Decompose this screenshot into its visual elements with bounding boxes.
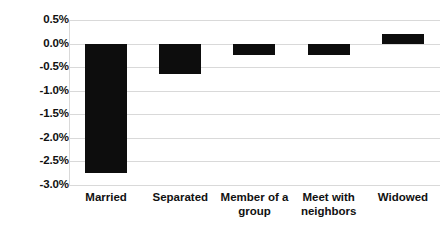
x-axis-tick-label: Member of a group [217,190,291,219]
y-axis-tick-label: -1.5% [7,109,69,121]
x-axis-tick-label: Widowed [366,190,440,204]
x-axis-tick-label: Separated [143,190,217,204]
y-axis-tick-label: -2.0% [7,132,69,144]
gridline [69,185,440,186]
bar[interactable] [308,44,350,56]
y-axis-tick-label: 0.0% [7,38,69,50]
x-axis-tick-label: Meet with neighbors [292,190,366,219]
bar-slot [217,20,291,185]
bar-chart: 0.5% 0.0% -0.5% -1.0% -1.5% -2.0% -2.5% … [0,0,444,237]
y-axis-tick-label: -1.0% [7,85,69,97]
bar[interactable] [159,44,201,75]
bar[interactable] [233,44,275,56]
bar-slot [366,20,440,185]
y-axis-tick-label: -0.5% [7,61,69,73]
x-axis-tick-label: Married [69,190,143,204]
y-axis-tick-label: -3.0% [7,179,69,191]
bar-slot [143,20,217,185]
y-axis-tick-label: -2.5% [7,156,69,168]
plot-area [69,20,440,185]
bar[interactable] [382,34,424,43]
bar[interactable] [85,44,127,174]
bar-slot [69,20,143,185]
y-axis-tick-label: 0.5% [7,14,69,26]
bar-slot [292,20,366,185]
